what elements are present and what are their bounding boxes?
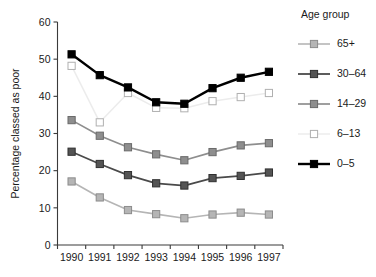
data-point-marker [124, 172, 131, 179]
y-tick-label: 10 [39, 202, 51, 214]
data-point-marker [68, 51, 75, 58]
y-tick-label: 0 [45, 239, 51, 251]
data-point-marker [68, 62, 75, 69]
x-tick-label: 1994 [173, 251, 197, 263]
data-point-marker [68, 148, 75, 155]
legend-label: 14–29 [337, 97, 366, 109]
data-point-marker [209, 85, 216, 92]
legend-marker [310, 160, 317, 167]
data-point-marker [68, 178, 75, 185]
data-point-marker [181, 157, 188, 164]
data-point-marker [153, 180, 160, 187]
x-tick-label: 1996 [229, 251, 253, 263]
data-point-marker [237, 142, 244, 149]
line-chart: 0102030405060199019911992199319941995199… [0, 0, 376, 277]
legend-marker [310, 40, 317, 47]
data-point-marker [209, 98, 216, 105]
legend-marker [310, 70, 317, 77]
x-tick-label: 1990 [60, 251, 84, 263]
y-axis-title: Percentage classed as poor [9, 68, 21, 199]
data-point-marker [265, 68, 272, 75]
data-point-marker [237, 93, 244, 100]
data-point-marker [96, 194, 103, 201]
legend-label: 6–13 [337, 127, 361, 139]
data-point-marker [124, 84, 131, 91]
x-tick-label: 1993 [144, 251, 168, 263]
data-point-marker [265, 89, 272, 96]
data-point-marker [153, 99, 160, 106]
data-point-marker [124, 206, 131, 213]
legend-label: 30–64 [337, 67, 366, 79]
data-point-marker [265, 140, 272, 147]
data-point-marker [68, 117, 75, 124]
data-point-marker [181, 100, 188, 107]
y-tick-label: 50 [39, 53, 51, 65]
x-tick-label: 1997 [257, 251, 281, 263]
y-tick-label: 20 [39, 164, 51, 176]
data-point-marker [124, 144, 131, 151]
legend-item-6-13[interactable]: 6–13 [298, 127, 361, 139]
legend-marker [310, 100, 317, 107]
data-point-marker [96, 160, 103, 167]
data-point-marker [237, 209, 244, 216]
data-point-marker [237, 74, 244, 81]
data-point-marker [265, 169, 272, 176]
x-tick-label: 1991 [88, 251, 112, 263]
data-point-marker [237, 172, 244, 179]
legend-item-0-5[interactable]: 0–5 [298, 157, 355, 169]
data-point-marker [153, 151, 160, 158]
legend-item-14-29[interactable]: 14–29 [298, 97, 366, 109]
x-tick-label: 1995 [201, 251, 225, 263]
y-tick-label: 60 [39, 16, 51, 28]
chart-axes [58, 22, 284, 245]
legend-label: 0–5 [337, 157, 355, 169]
data-point-marker [96, 132, 103, 139]
data-point-marker [181, 182, 188, 189]
data-point-marker [96, 119, 103, 126]
legend-marker [310, 130, 317, 137]
data-point-marker [153, 211, 160, 218]
y-tick-label: 30 [39, 127, 51, 139]
x-tick-label: 1992 [116, 251, 140, 263]
data-point-marker [181, 215, 188, 222]
legend-label: 65+ [337, 37, 355, 49]
y-tick-label: 40 [39, 90, 51, 102]
legend-item-30-64[interactable]: 30–64 [298, 67, 366, 79]
data-point-marker [209, 211, 216, 218]
legend-item-65-[interactable]: 65+ [298, 37, 355, 49]
data-point-marker [96, 72, 103, 79]
data-point-marker [209, 175, 216, 182]
legend-title: Age group [301, 8, 350, 20]
data-point-marker [265, 211, 272, 218]
series-30-64 [68, 148, 273, 189]
data-point-marker [209, 148, 216, 155]
chart-figure: 0102030405060199019911992199319941995199… [0, 0, 376, 277]
